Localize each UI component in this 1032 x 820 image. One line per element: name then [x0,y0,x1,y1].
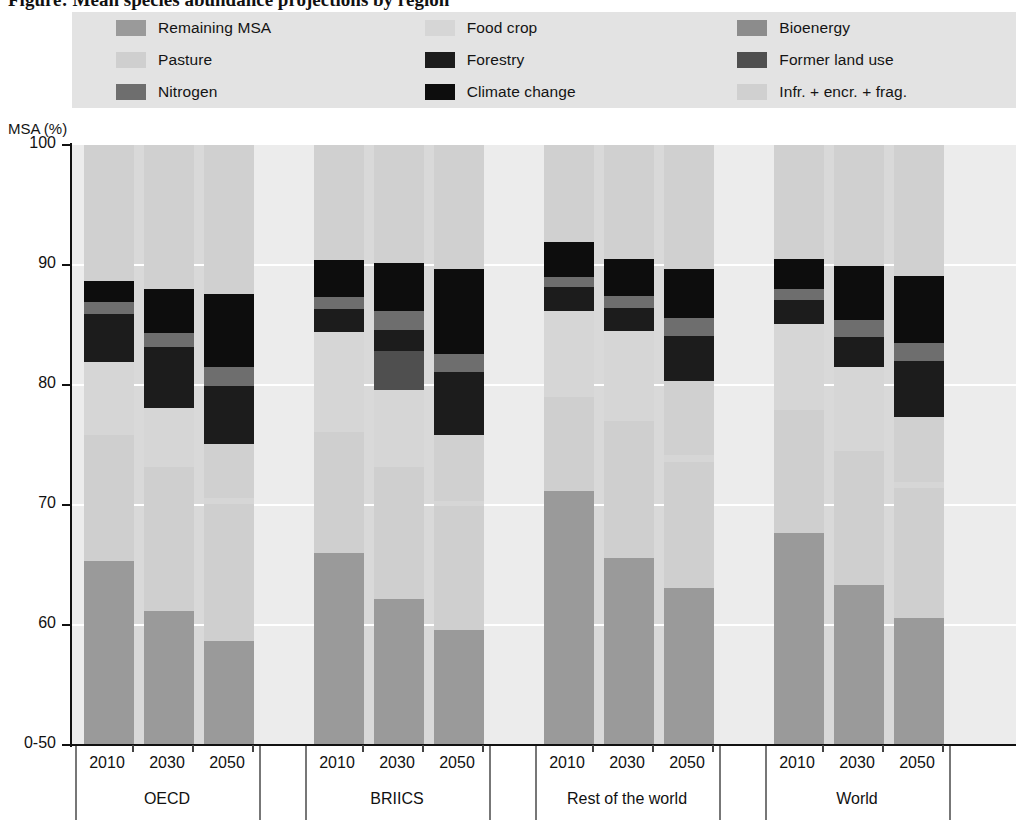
x-axis-year-label: 2050 [887,754,947,772]
plot-spacer-lane [484,145,544,745]
stacked-bar[interactable] [314,145,364,745]
bar-segment-food-crop [84,362,134,435]
bar-segment-food-crop [374,390,424,467]
legend-item-label: Bioenergy [779,19,850,37]
bar-segment-nitrogen [774,289,824,300]
legend-item-label: Climate change [467,83,576,101]
figure-title-strip: Figure: Mean species abundance projectio… [0,0,1032,12]
x-axis-tick [822,745,824,752]
bar-segment-infr-encr-frag-top [314,145,364,260]
stacked-bar[interactable] [604,145,654,745]
legend-swatch-icon [116,52,146,68]
bar-segment-infr-encr-frag-top [434,145,484,269]
x-axis-tick [482,745,484,752]
x-axis-tick [592,745,594,752]
bar-segment-forestry [434,372,484,436]
legend-item[interactable]: Climate change [387,83,702,101]
legend-swatch-icon [425,84,455,100]
bar-segment-pasture [434,506,484,630]
legend-swatch-icon [425,52,455,68]
stacked-bar[interactable] [544,145,594,745]
bar-segment-pasture [834,451,884,585]
bar-segment-forestry [894,361,944,417]
legend-swatch-icon [737,52,767,68]
stacked-bar[interactable] [204,145,254,745]
bar-segment-food-crop [434,501,484,506]
legend-item[interactable]: Nitrogen [72,83,387,101]
bar-segment-food-crop [544,311,594,397]
stacked-bar[interactable] [434,145,484,745]
bar-segment-infr-encr-frag-top [374,145,424,263]
legend-item[interactable]: Food crop [387,19,702,37]
figure-root: Figure: Mean species abundance projectio… [0,0,1032,820]
bar-segment-nitrogen [84,302,134,314]
stacked-bar[interactable] [894,145,944,745]
bar-segment-climate-change [894,276,944,343]
stacked-bar[interactable] [834,145,884,745]
group-separator [949,746,951,820]
bar-segment-forestry [664,336,714,382]
y-axis-tick [62,624,71,626]
bar-segment-pasture [894,488,944,618]
bar-segment-remaining-msa [204,641,254,745]
bar-segment-infr-encr-frag-top [664,145,714,269]
bar-segment-nitrogen [314,297,364,309]
legend-item[interactable]: Forestry [387,51,702,69]
bar-segment-climate-change [604,259,654,296]
bar-segment-former-land-use [374,351,424,389]
bar-segment-infr-encr-frag-top [544,145,594,242]
bar-segment-climate-change [434,269,484,354]
stacked-bar[interactable] [84,145,134,745]
bar-segment-pasture [84,435,134,561]
legend-item[interactable]: Remaining MSA [72,19,387,37]
bar-segment-climate-change [544,242,594,277]
figure-title: Figure: Mean species abundance projectio… [8,0,449,11]
y-axis-line [70,143,72,747]
bar-segment-nitrogen [544,277,594,287]
bar-segment-nitrogen [604,296,654,308]
x-axis-year-label: 2050 [427,754,487,772]
group-separator [75,746,77,820]
bar-segment-remaining-msa [834,585,884,745]
stacked-bar[interactable] [374,145,424,745]
legend-item-label: Former land use [779,51,893,69]
bar-segment-pasture [314,432,364,553]
bar-segment-forestry [314,309,364,332]
chart-legend: Remaining MSAFood cropBioenergyPastureFo… [72,12,1016,108]
legend-item-label: Food crop [467,19,538,37]
bar-segment-food-crop [894,482,944,488]
x-axis-tick [132,745,134,752]
x-axis-year-label: 2030 [137,754,197,772]
bar-segment-infr-encr-frag-top [774,145,824,259]
y-axis-tick-label: 0-50 [0,734,56,752]
x-axis-year-label: 2010 [307,754,367,772]
bar-segment-infr-encr-frag-top [84,145,134,281]
bar-segment-remaining-msa [84,561,134,745]
bar-segment-infr-encr-frag-top [894,145,944,276]
bar-segment-food-crop [664,455,714,462]
legend-item-label: Nitrogen [158,83,217,101]
bar-segment-food-crop [774,324,824,410]
bar-segment-climate-change [774,259,824,289]
bar-segment-remaining-msa [434,630,484,745]
plot-area [72,145,1016,745]
x-axis-year-label: 2030 [367,754,427,772]
legend-item[interactable]: Pasture [72,51,387,69]
legend-item[interactable]: Infr. + encr. + frag. [701,83,1016,101]
x-axis-tick [252,745,254,752]
legend-swatch-icon [737,20,767,36]
stacked-bar[interactable] [144,145,194,745]
x-axis-tick [712,745,714,752]
x-axis-group-label: OECD [62,790,272,808]
legend-item[interactable]: Bioenergy [701,19,1016,37]
bar-segment-nitrogen [204,367,254,386]
stacked-bar[interactable] [664,145,714,745]
legend-swatch-icon [425,20,455,36]
bar-segment-forestry [544,287,594,311]
legend-item[interactable]: Former land use [701,51,1016,69]
bar-segment-remaining-msa [664,588,714,745]
legend-item-label: Pasture [158,51,212,69]
plot-spacer-lane [72,145,84,745]
stacked-bar[interactable] [774,145,824,745]
bar-segment-forestry [604,308,654,331]
